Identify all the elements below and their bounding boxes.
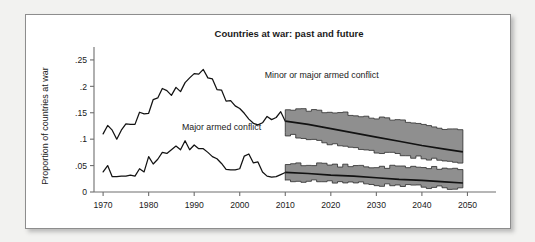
y-tick-label: .25 — [75, 55, 87, 65]
y-tick-label: 0 — [82, 187, 87, 197]
x-tick-label: 2040 — [412, 200, 431, 210]
x-tick-label: 1970 — [94, 200, 113, 210]
x-tick-label: 2010 — [276, 200, 295, 210]
x-tick-label: 2050 — [458, 200, 477, 210]
figure-frame: Countries at war: past and future0.05.1.… — [25, 14, 511, 229]
screenshot-root: Countries at war: past and future0.05.1.… — [0, 0, 535, 242]
x-tick-label: 2030 — [367, 200, 386, 210]
x-tick-label: 2000 — [230, 200, 249, 210]
chart-canvas: Countries at war: past and future0.05.1.… — [26, 15, 510, 228]
y-tick-label: .15 — [75, 108, 87, 118]
y-tick-label: .05 — [75, 161, 87, 171]
historical-line-series-1 — [103, 141, 285, 177]
series-annotation-1: Major armed conflict — [182, 122, 262, 132]
confidence-band-series-3 — [285, 163, 463, 190]
y-tick-label: .2 — [80, 82, 87, 92]
x-tick-label: 1990 — [185, 200, 204, 210]
chart-title: Countries at war: past and future — [215, 28, 364, 39]
y-axis-title: Proportion of countries at war — [40, 67, 50, 185]
x-tick-label: 2020 — [321, 200, 340, 210]
y-tick-label: .1 — [80, 134, 87, 144]
x-tick-label: 1980 — [139, 200, 158, 210]
series-annotation-0: Minor or major armed conflict — [265, 70, 379, 80]
